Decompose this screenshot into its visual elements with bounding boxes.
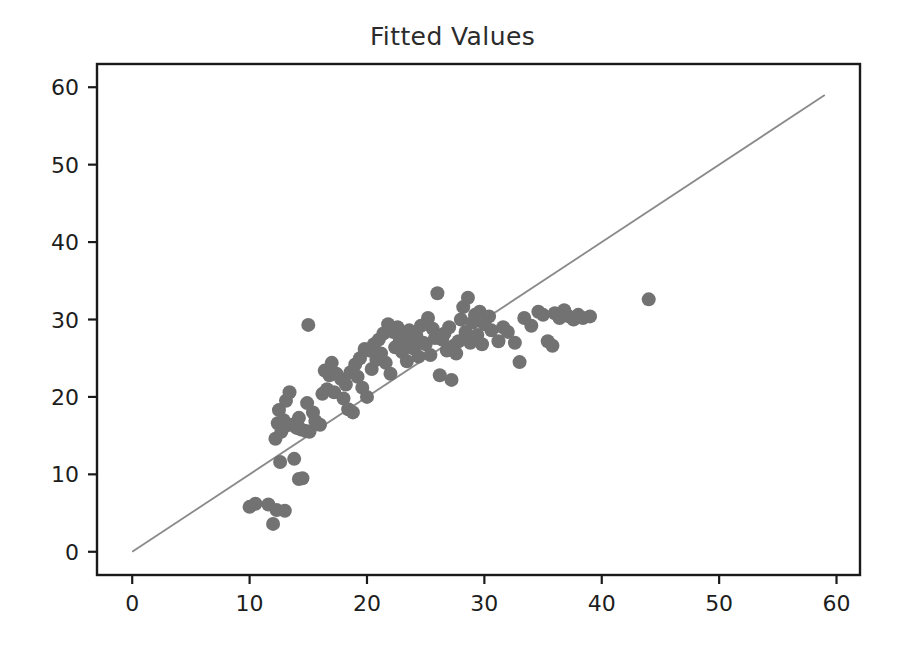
- data-point: [449, 347, 463, 361]
- x-tick-label: 60: [823, 591, 851, 616]
- data-point: [273, 455, 287, 469]
- x-tick-label: 40: [588, 591, 616, 616]
- data-point: [339, 378, 353, 392]
- y-tick-label: 60: [51, 75, 79, 100]
- chart-figure: Fitted Values 01020304050600102030405060: [0, 0, 905, 652]
- y-tick-label: 10: [51, 462, 79, 487]
- data-point: [583, 309, 597, 323]
- data-point: [278, 504, 292, 518]
- data-point: [442, 320, 456, 334]
- x-tick-label: 30: [470, 591, 498, 616]
- data-point: [642, 292, 656, 306]
- data-point: [248, 497, 262, 511]
- data-point: [454, 313, 468, 327]
- data-point: [301, 318, 315, 332]
- data-point: [445, 373, 459, 387]
- data-point: [482, 309, 496, 323]
- data-point: [292, 411, 306, 425]
- data-point: [283, 385, 297, 399]
- data-point: [430, 286, 444, 300]
- y-tick-label: 20: [51, 385, 79, 410]
- data-point: [346, 405, 360, 419]
- data-point: [360, 390, 374, 404]
- x-tick-label: 0: [125, 591, 139, 616]
- scatter-plot: 01020304050600102030405060: [0, 0, 905, 652]
- data-point: [545, 339, 559, 353]
- y-tick-label: 40: [51, 230, 79, 255]
- data-point: [423, 348, 437, 362]
- data-point: [313, 418, 327, 432]
- data-point: [412, 350, 426, 364]
- x-tick-label: 10: [236, 591, 264, 616]
- data-point: [266, 517, 280, 531]
- data-point: [383, 367, 397, 381]
- data-point: [524, 319, 538, 333]
- data-point: [508, 336, 522, 350]
- data-point: [475, 337, 489, 351]
- data-point: [295, 471, 309, 485]
- data-point: [513, 355, 527, 369]
- x-tick-label: 50: [705, 591, 733, 616]
- data-point: [461, 291, 475, 305]
- y-tick-label: 30: [51, 308, 79, 333]
- data-point: [287, 452, 301, 466]
- x-tick-label: 20: [353, 591, 381, 616]
- data-point: [536, 308, 550, 322]
- y-tick-label: 50: [51, 153, 79, 178]
- y-tick-label: 0: [65, 540, 79, 565]
